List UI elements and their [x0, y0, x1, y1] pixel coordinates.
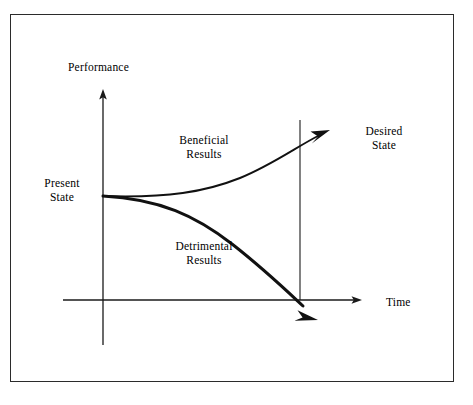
desired-state-label: Desired State — [352, 124, 416, 152]
present-state-label-line2: State — [32, 190, 92, 204]
detrimental-results-label-line1: Detrimental — [152, 239, 256, 253]
beneficial-arrowhead — [311, 130, 331, 143]
detrimental-results-label: Detrimental Results — [152, 239, 256, 267]
detrimental-results-label-line2: Results — [152, 253, 256, 267]
desired-state-label-line1: Desired — [352, 124, 416, 138]
x-axis — [63, 296, 362, 304]
beneficial-results-label-line2: Results — [158, 147, 250, 161]
beneficial-results-label: Beneficial Results — [158, 133, 250, 161]
y-axis — [99, 89, 107, 345]
beneficial-results-label-line1: Beneficial — [158, 133, 250, 147]
figure-root: Performance Time Present State Beneficia… — [0, 0, 473, 405]
present-state-label: Present State — [32, 176, 92, 204]
desired-state-label-line2: State — [352, 138, 416, 152]
x-axis-label: Time — [386, 296, 411, 310]
present-state-label-line1: Present — [32, 176, 92, 190]
y-axis-label: Performance — [68, 61, 129, 75]
detrimental-arrowhead — [294, 310, 318, 321]
